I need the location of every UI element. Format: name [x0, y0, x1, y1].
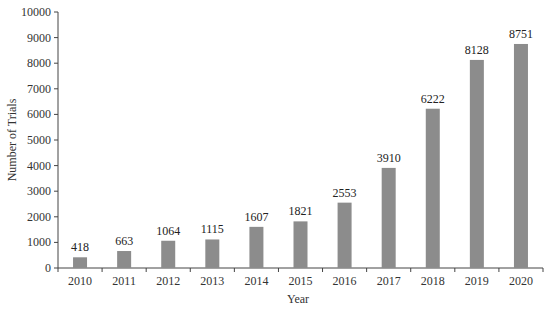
- y-tick-label: 0: [45, 261, 51, 275]
- bar-value-label: 663: [115, 234, 133, 248]
- bar-value-label: 6222: [421, 92, 445, 106]
- bar: [73, 257, 87, 268]
- x-tick-label: 2018: [421, 274, 445, 288]
- y-tick-label: 9000: [27, 31, 51, 45]
- bar: [294, 221, 308, 268]
- x-tick-label: 2019: [465, 274, 489, 288]
- x-tick-label: 2016: [333, 274, 357, 288]
- bar-value-label: 2553: [333, 186, 357, 200]
- y-tick-label: 10000: [21, 5, 51, 19]
- bar: [382, 168, 396, 268]
- bars: 4186631064111516071821255339106222812887…: [71, 27, 533, 268]
- bar-value-label: 3910: [377, 151, 401, 165]
- bar-chart: 0100020003000400050006000700080009000100…: [0, 0, 555, 316]
- y-axis: 0100020003000400050006000700080009000100…: [21, 5, 58, 275]
- x-tick-label: 2013: [200, 274, 224, 288]
- bar: [205, 239, 219, 268]
- y-tick-label: 1000: [27, 235, 51, 249]
- bar: [161, 241, 175, 268]
- y-tick-label: 8000: [27, 56, 51, 70]
- x-tick-label: 2020: [509, 274, 533, 288]
- y-tick-label: 3000: [27, 184, 51, 198]
- bar-value-label: 1064: [156, 224, 180, 238]
- x-axis: 2010201120122013201420152016201720182019…: [58, 268, 543, 288]
- x-tick-label: 2011: [112, 274, 136, 288]
- x-tick-label: 2012: [156, 274, 180, 288]
- bar: [514, 44, 528, 268]
- bar-value-label: 1607: [244, 210, 268, 224]
- y-tick-label: 6000: [27, 107, 51, 121]
- x-tick-label: 2010: [68, 274, 92, 288]
- bar-value-label: 418: [71, 240, 89, 254]
- x-tick-label: 2014: [244, 274, 268, 288]
- x-axis-title: Year: [287, 292, 309, 306]
- x-tick-label: 2017: [377, 274, 401, 288]
- bar-value-label: 8128: [465, 43, 489, 57]
- bar: [338, 203, 352, 268]
- bar-value-label: 1115: [201, 222, 224, 236]
- bar: [470, 60, 484, 268]
- bar: [117, 251, 131, 268]
- y-axis-title: Number of Trials: [5, 98, 19, 181]
- bar: [249, 227, 263, 268]
- bar-value-label: 8751: [509, 27, 533, 41]
- x-tick-label: 2015: [289, 274, 313, 288]
- y-tick-label: 4000: [27, 159, 51, 173]
- bar: [426, 109, 440, 268]
- y-tick-label: 2000: [27, 210, 51, 224]
- y-tick-label: 5000: [27, 133, 51, 147]
- y-tick-label: 7000: [27, 82, 51, 96]
- bar-value-label: 1821: [289, 204, 313, 218]
